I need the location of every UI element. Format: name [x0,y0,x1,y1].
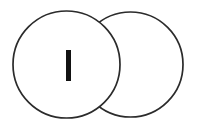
overlapping-circles-figure: Two overlapping circles with a vertical … [0,0,197,131]
diagram-canvas: Two overlapping circles with a vertical … [0,0,197,131]
vertical-bar-glyph [66,50,71,81]
